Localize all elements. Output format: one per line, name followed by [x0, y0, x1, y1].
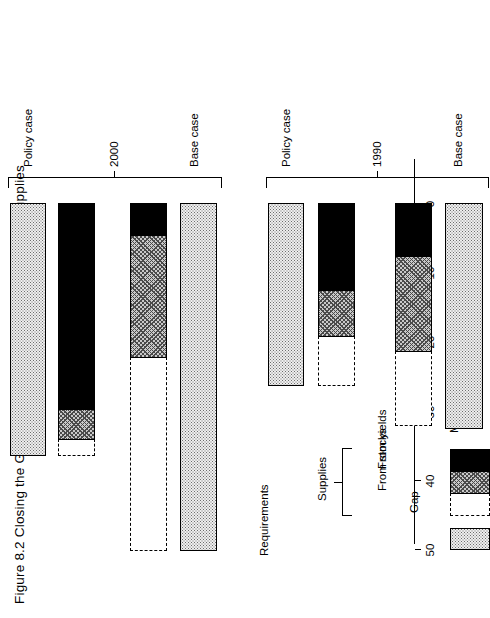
group-bracket-stem-2000 [114, 171, 115, 178]
legend-label-requirements: Requirements [258, 484, 270, 556]
legend-swatch-from-stocks [450, 471, 490, 494]
bar-from-stocks-2000-base [130, 235, 167, 358]
bar-from-stocks-1990-policy [318, 290, 355, 337]
category-label-2000-policy: Policy case [22, 109, 34, 167]
category-label-1990-policy: Policy case [280, 109, 292, 167]
legend-supplies-bracket [342, 448, 352, 516]
bar-requirements-2000-base [180, 203, 217, 551]
axis-tick-label-50: 50 [424, 535, 436, 565]
category-label-1990-base: Base case [452, 113, 464, 167]
bar-gap-2000-base [130, 357, 167, 551]
bar-from-yields-2000-base [130, 203, 167, 236]
group-bracket-1990 [266, 177, 489, 188]
legend-swatch-from-yields [450, 449, 490, 472]
bar-requirements-1990-base [445, 203, 483, 429]
axis-tick-50 [415, 549, 421, 550]
bar-from-yields-2000-policy [58, 203, 95, 410]
bar-from-yields-1990-policy [318, 203, 355, 291]
axis-tick-40 [415, 480, 421, 481]
bar-requirements-2000-policy [10, 203, 46, 456]
legend-swatch-requirements [450, 528, 490, 550]
bar-gap-2000-policy [58, 439, 95, 456]
bar-from-stocks-2000-policy [58, 409, 95, 440]
legend-label-supplies: Supplies [316, 457, 328, 501]
bar-requirements-1990-policy [268, 203, 304, 386]
group-label-1990: 1990 [371, 141, 383, 167]
group-bracket-2000 [8, 177, 222, 188]
axis-tick-label-40: 40 [424, 466, 436, 496]
bar-gap-1990-policy [318, 336, 355, 386]
bar-from-yields-1990-base [395, 203, 432, 257]
legend-supplies-bracket-stem [334, 482, 342, 483]
bar-from-stocks-1990-base [395, 256, 432, 352]
legend-label-gap: Gap [408, 491, 420, 513]
legend-swatch-gap [450, 493, 490, 516]
category-label-2000-base: Base case [188, 113, 200, 167]
legend-label-from-yields: From yields [376, 410, 388, 469]
bar-gap-1990-base [395, 351, 432, 426]
group-bracket-stem-1990 [377, 171, 378, 178]
group-label-2000: 2000 [108, 141, 120, 167]
